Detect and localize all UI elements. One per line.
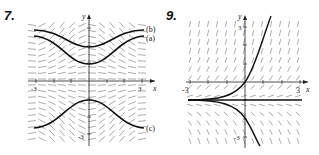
x-min-tick: -3	[31, 85, 37, 93]
curve-label-b: (b)	[146, 25, 156, 34]
y-min-tick: -3	[234, 134, 240, 142]
y-axis-label: y	[81, 12, 86, 21]
figure-9: 9. y x -3 3 3 -3	[160, 0, 319, 155]
x-max-tick: 3	[296, 86, 300, 95]
figure-7: 7. y x -3 3 -3 (b) (a) (c)	[0, 0, 160, 155]
x-axis-label: x	[152, 84, 157, 93]
slope-field-plot-7: y x -3 3 -3 (b) (a) (c)	[0, 0, 160, 155]
y-axis-label: y	[237, 12, 242, 21]
x-max-tick: 3	[138, 85, 142, 93]
curve-label-c: (c)	[146, 124, 155, 133]
curve-label-a: (a)	[146, 34, 155, 43]
slope-field-plot-9: y x -3 3 3 -3	[160, 0, 319, 155]
x-min-tick: -3	[182, 86, 189, 95]
x-axis-label: x	[305, 85, 310, 94]
y-min-tick: -3	[78, 133, 84, 141]
y-max-tick: 3	[238, 24, 242, 32]
